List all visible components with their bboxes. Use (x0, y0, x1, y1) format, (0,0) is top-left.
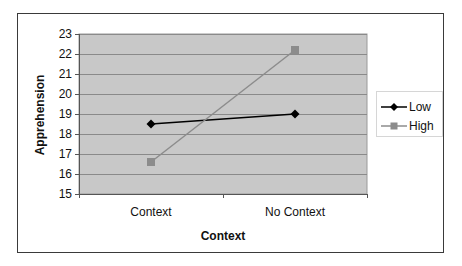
x-axis-title: Context (201, 229, 246, 243)
diamond-marker-icon (379, 100, 411, 114)
y-tick-label: 18 (52, 128, 72, 140)
y-tick-label: 22 (52, 48, 72, 60)
y-tick-label: 17 (52, 148, 72, 160)
legend-item-low: Low (377, 100, 444, 114)
x-tick-no-context: No Context (265, 205, 325, 219)
y-tick-label: 23 (52, 28, 72, 40)
legend: Low High (376, 91, 443, 137)
y-tick-label: 20 (52, 88, 72, 100)
y-tick-label: 19 (52, 108, 72, 120)
legend-item-high: High (377, 119, 444, 133)
y-axis-title: Apprehension (33, 75, 47, 156)
legend-label-high: High (409, 119, 434, 133)
legend-label-low: Low (409, 100, 431, 114)
y-tick-label: 15 (52, 188, 72, 200)
x-tick-context: Context (130, 205, 171, 219)
square-marker-icon (379, 119, 411, 133)
y-tick-label: 16 (52, 168, 72, 180)
y-tick-label: 21 (52, 68, 72, 80)
